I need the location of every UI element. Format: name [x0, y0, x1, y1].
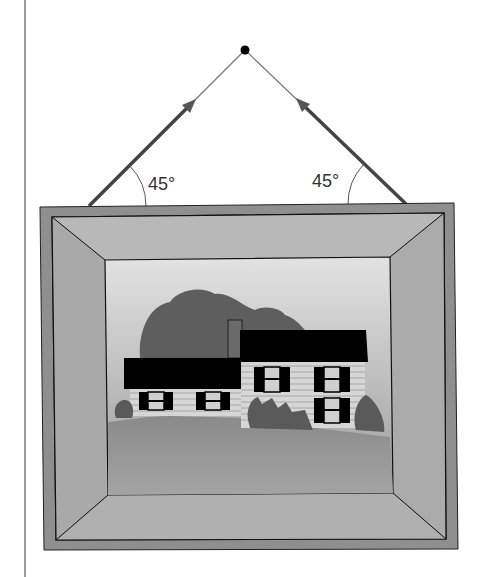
nail-point — [241, 46, 250, 55]
window — [254, 367, 290, 392]
house-painting — [105, 257, 393, 495]
window — [314, 398, 350, 423]
window — [196, 392, 230, 410]
window — [314, 367, 350, 392]
left-angle-arc — [130, 166, 146, 206]
hanging-picture-diagram: 45° 45° — [0, 0, 484, 577]
window — [139, 392, 173, 410]
right-angle-label: 45° — [312, 171, 339, 191]
right-angle-arc — [348, 165, 363, 204]
left-angle-label: 45° — [148, 174, 175, 194]
